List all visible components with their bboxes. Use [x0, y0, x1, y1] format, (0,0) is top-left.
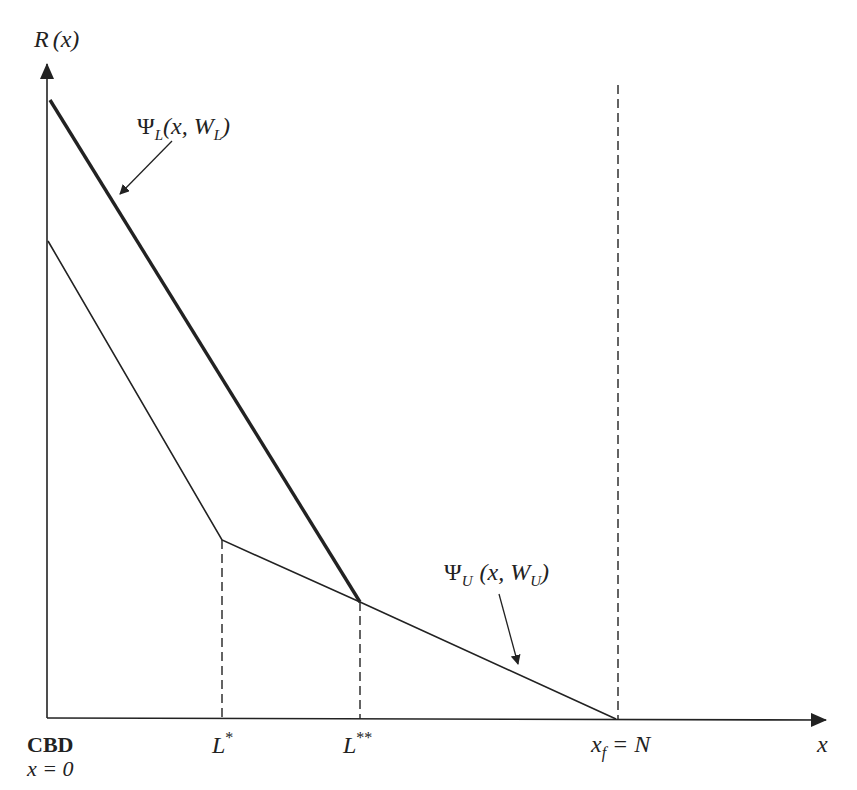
psi-l-label: ΨL(x, WL): [137, 113, 230, 143]
origin-cbd-label: CBD: [27, 732, 73, 757]
xf-label: xf = N: [590, 731, 652, 762]
l-double-star-label: L**: [342, 729, 372, 758]
y-axis-label: R(x): [33, 26, 79, 52]
psi-u-pointer-arrow: [499, 594, 518, 664]
psi-l-curve: [50, 100, 360, 602]
psi-l-pointer-arrow: [120, 141, 172, 194]
bid-rent-diagram: R(x) x CBD x = 0 L* L** xf = N ΨL(x, WL)…: [0, 0, 857, 790]
x-axis: [47, 718, 826, 720]
l-star-label: L*: [211, 729, 233, 758]
x-axis-label: x: [816, 731, 828, 757]
origin-x-zero-label: x = 0: [26, 756, 74, 781]
psi-u-label: ΨU(x, WU): [444, 559, 549, 589]
psi-u-curve: [48, 241, 616, 719]
